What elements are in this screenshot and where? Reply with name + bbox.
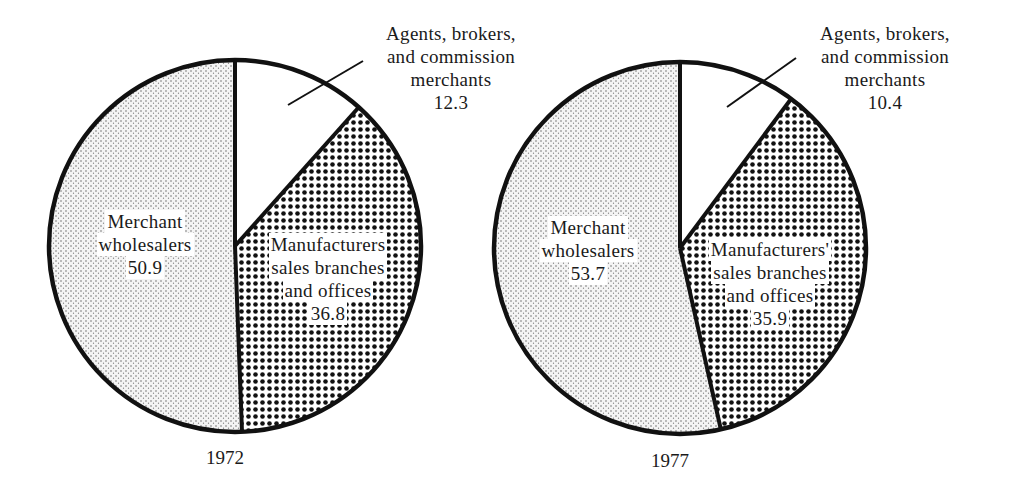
label-manufacturers-1972: Manufacturers sales branches and offices… [248,233,408,325]
label-agents-1972: Agents, brokers, and commission merchant… [366,22,536,114]
label-agents-1977: Agents, brokers, and commission merchant… [800,22,970,114]
label-merchant-1977: Merchant wholesalers 53.7 [523,216,653,285]
year-label-1977: 1977 [651,450,689,472]
year-label-1972: 1972 [206,447,244,469]
label-merchant-1972: Merchant wholesalers 50.9 [80,210,210,279]
label-manufacturers-1977: Manufacturers' sales branches and office… [690,238,850,330]
